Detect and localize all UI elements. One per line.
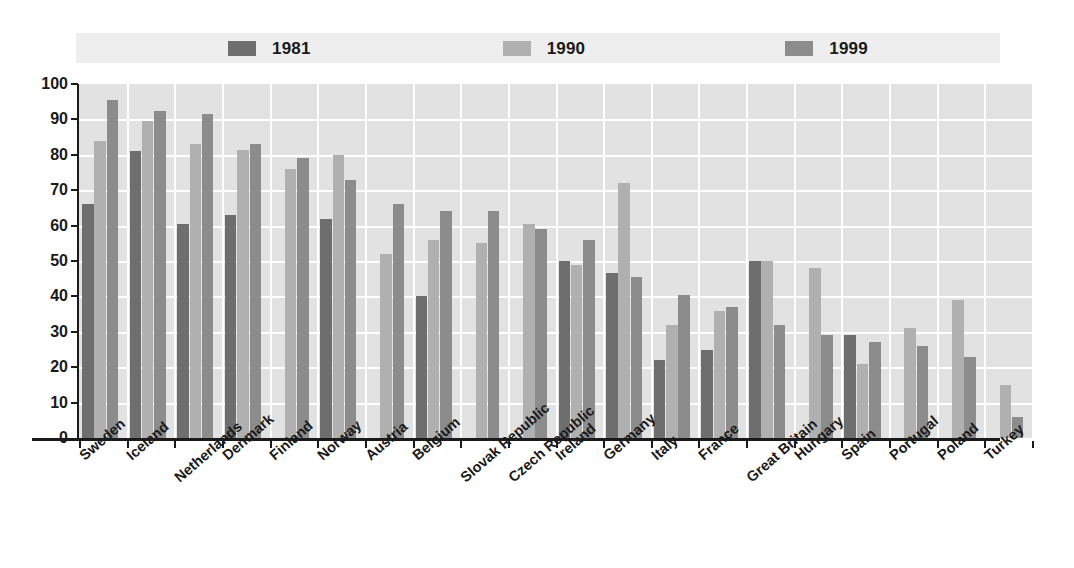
x-tick-label: Austria (363, 419, 410, 463)
x-axis-labels: SwedenIcelandNetherlandsDenmarkFinlandNo… (0, 0, 1074, 568)
x-tick-label: Belgium (410, 414, 463, 462)
x-tick-label: Italy (649, 433, 680, 463)
x-tick-label: Poland (935, 420, 981, 463)
chart-root: 1981 1990 1999 0102030405060708090100 Sw… (0, 0, 1074, 568)
x-tick-label: Iceland (124, 419, 171, 463)
x-tick-label: France (696, 421, 741, 463)
x-tick-label: Norway (315, 418, 364, 463)
x-tick-label: Germany (601, 411, 658, 463)
x-tick-label: Turkey (982, 422, 1027, 463)
x-tick-label: Sweden (77, 416, 128, 463)
x-tick-label: Portugal (887, 413, 941, 463)
x-tick-label: Spain (839, 426, 878, 463)
x-tick-label: Finland (267, 418, 315, 463)
